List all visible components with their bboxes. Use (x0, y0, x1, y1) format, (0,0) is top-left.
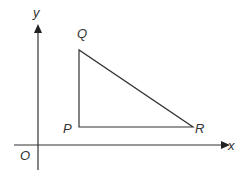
y-axis-label: y (32, 5, 41, 20)
x-axis-label: x (227, 138, 235, 153)
point-q-label: Q (77, 26, 87, 41)
point-p-label: P (63, 121, 72, 136)
y-axis-arrow-icon (34, 24, 42, 33)
diagram-canvas: y x O Q P R (0, 0, 243, 177)
triangle-pqr (79, 50, 193, 127)
origin-label: O (20, 148, 30, 163)
point-r-label: R (195, 121, 204, 136)
